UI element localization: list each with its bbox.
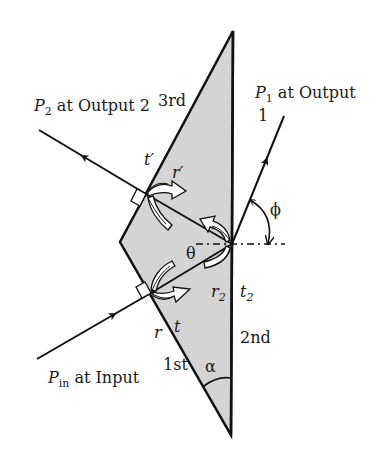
label-phi: ϕ — [270, 200, 281, 219]
phi-angle-arc-start — [250, 200, 270, 240]
prism-diagram: P2 at Output 2 3rd P1 at Output 1 t′ r′ … — [0, 0, 385, 464]
label-alpha: α — [205, 357, 216, 376]
label-face-2nd: 2nd — [240, 328, 271, 347]
label-pin-input: Pin at Input — [47, 368, 140, 390]
label-p1-output-1: P1 at Output — [254, 83, 356, 105]
label-t: t — [174, 317, 181, 336]
label-theta: θ — [186, 244, 196, 263]
ray-output-1 — [232, 116, 284, 244]
label-face-1st: 1st — [163, 355, 188, 374]
label-p2-output-2: P2 at Output 2 — [33, 96, 150, 118]
label-p1-output-1-line2: 1 — [258, 106, 268, 125]
ray-output-2 — [39, 130, 146, 194]
label-r: r — [154, 323, 163, 342]
label-t-prime: t′ — [144, 150, 154, 169]
ray-input — [37, 293, 151, 359]
phi-angle-arc — [250, 200, 270, 244]
label-r-prime: r′ — [172, 163, 184, 182]
label-t2: t2 — [240, 282, 253, 304]
label-face-3rd: 3rd — [158, 91, 186, 110]
